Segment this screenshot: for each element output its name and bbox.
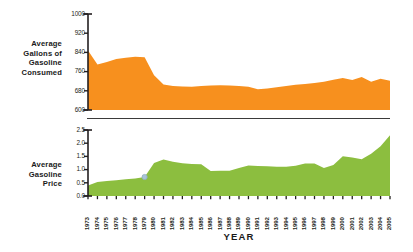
x-axis-year-label: 2000 bbox=[339, 217, 345, 230]
axis-label-gasoline-price: Average Gasoline Price bbox=[0, 160, 62, 189]
x-axis-year-label: 1986 bbox=[207, 217, 213, 230]
x-axis-year-label: 1991 bbox=[254, 217, 260, 230]
axis-label-line: Gallons of bbox=[0, 49, 62, 59]
x-axis-year-label: 1983 bbox=[179, 217, 185, 230]
x-axis-year-label: 1990 bbox=[245, 217, 251, 230]
x-axis-title: YEAR bbox=[88, 231, 390, 242]
x-axis-year-label: 1987 bbox=[216, 217, 222, 230]
highlight-dot-marker bbox=[142, 174, 147, 179]
x-axis-year-label: 1996 bbox=[301, 217, 307, 230]
x-axis-year-label: 1981 bbox=[160, 217, 166, 230]
x-axis-year-label: 1988 bbox=[226, 217, 232, 230]
plot-area-gallons bbox=[60, 10, 413, 118]
x-axis-year-label: 1979 bbox=[141, 217, 147, 230]
x-axis-year-label: 1993 bbox=[273, 217, 279, 230]
area-series bbox=[88, 50, 390, 110]
axis-label-gallons-consumed: Average Gallons of Gasoline Consumed bbox=[0, 39, 62, 77]
x-axis-year-label: 2005 bbox=[386, 217, 392, 230]
x-axis-year-label: 2002 bbox=[358, 217, 364, 230]
axis-label-line: Consumed bbox=[0, 68, 62, 78]
panel-divider bbox=[87, 118, 390, 119]
x-axis-year-label: 1997 bbox=[311, 217, 317, 230]
area-series bbox=[88, 135, 390, 196]
axis-label-line: Price bbox=[0, 179, 62, 189]
x-axis-year-label: 1980 bbox=[150, 217, 156, 230]
axis-label-line: Gasoline bbox=[0, 58, 62, 68]
chart-gallons-consumed: 6006807608409201000 bbox=[60, 10, 413, 118]
x-axis-year-label: 1984 bbox=[188, 217, 194, 230]
x-axis-year-label: 2001 bbox=[348, 217, 354, 230]
x-axis-year-label: 1975 bbox=[103, 217, 109, 230]
x-axis-year-label: 2003 bbox=[367, 217, 373, 230]
axis-label-line: Average bbox=[0, 39, 62, 49]
x-axis-year-label: 1989 bbox=[235, 217, 241, 230]
x-axis-year-label: 1992 bbox=[264, 217, 270, 230]
x-axis-year-label: 1995 bbox=[292, 217, 298, 230]
x-axis-year-label: 2004 bbox=[377, 217, 383, 230]
x-axis-year-label: 1974 bbox=[94, 217, 100, 230]
x-axis-year-label: 1973 bbox=[84, 217, 90, 230]
x-axis-year-label: 1978 bbox=[131, 217, 137, 230]
x-axis-year-label: 1982 bbox=[169, 217, 175, 230]
x-axis-year-label: 1976 bbox=[113, 217, 119, 230]
axis-label-line: Average bbox=[0, 160, 62, 170]
axis-label-line: Gasoline bbox=[0, 170, 62, 180]
x-axis-year-label: 1999 bbox=[330, 217, 336, 230]
x-axis-year-label: 1994 bbox=[282, 217, 288, 230]
x-axis-year-label: 1985 bbox=[197, 217, 203, 230]
x-axis-year-labels: 1973197419751976197719781979198019811982… bbox=[88, 196, 390, 230]
x-axis-year-label: 1998 bbox=[320, 217, 326, 230]
gasoline-figure: Average Gallons of Gasoline Consumed Ave… bbox=[0, 0, 413, 252]
x-axis-year-label: 1977 bbox=[122, 217, 128, 230]
